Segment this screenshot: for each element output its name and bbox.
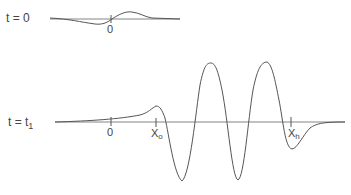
panel-t1: t = t1 0 Xo Xh [8,62,345,181]
tick-origin-t1-label: 0 [107,126,113,138]
tick-xo-label: Xo [151,127,163,141]
pulse-t0 [50,12,180,24]
tick-xh-label: Xh [288,127,300,141]
wave-diagram: t = 0 0 t = t1 0 Xo Xh [0,0,351,195]
panel-t0-label: t = 0 [6,11,30,25]
wave-t1 [55,62,345,181]
panel-t1-label: t = t1 [8,115,33,131]
panel-t0: t = 0 0 [6,11,180,35]
tick-origin-t0-label: 0 [107,23,113,35]
